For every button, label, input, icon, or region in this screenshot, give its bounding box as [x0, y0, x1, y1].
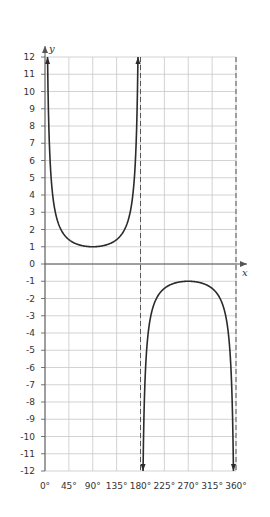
x-tick-label: 315° — [201, 481, 223, 491]
curve-arrow-icon — [135, 57, 140, 64]
y-tick-label: 5 — [29, 173, 35, 183]
x-tick-label: 45° — [61, 481, 77, 491]
x-tick-label: 180° — [130, 481, 152, 491]
y-tick-label: -6 — [26, 363, 35, 373]
x-tick-label: 270° — [177, 481, 199, 491]
y-tick-label: 10 — [24, 87, 36, 97]
curve-arrow-icon — [231, 464, 236, 471]
y-tick-label: 8 — [29, 121, 35, 131]
y-tick-label: 6 — [29, 156, 35, 166]
curve-arrow-icon — [141, 464, 146, 471]
y-tick-label: -10 — [20, 432, 35, 442]
y-tick-label: -8 — [26, 397, 35, 407]
x-tick-labels: 0°45°90°135°180°225°270°315°360° — [40, 481, 247, 491]
y-axis-label: y — [48, 43, 55, 54]
y-tick-label: 2 — [29, 225, 35, 235]
y-tick-label: 4 — [29, 190, 35, 200]
cosec-chart: 1211109876543210-1-2-3-4-5-6-7-8-9-10-11… — [0, 0, 270, 517]
y-tick-label: -5 — [26, 345, 35, 355]
y-tick-label: 0 — [29, 259, 35, 269]
y-tick-label: 7 — [29, 138, 35, 148]
y-tick-label: 11 — [24, 69, 35, 79]
y-tick-label: -3 — [26, 311, 35, 321]
y-tick-labels: 1211109876543210-1-2-3-4-5-6-7-8-9-10-11… — [20, 52, 35, 476]
x-axis-label: x — [242, 267, 248, 278]
x-tick-label: 135° — [106, 481, 128, 491]
y-tick-label: 1 — [29, 242, 35, 252]
y-tick-label: -7 — [26, 380, 35, 390]
y-tick-label: -4 — [26, 328, 35, 338]
y-tick-label: 9 — [29, 104, 35, 114]
y-tick-label: 12 — [24, 52, 35, 62]
y-tick-label: -2 — [26, 294, 35, 304]
x-tick-label: 90° — [85, 481, 101, 491]
y-tick-label: -9 — [26, 414, 35, 424]
x-tick-label: 360° — [225, 481, 247, 491]
y-axis-arrow-icon — [42, 46, 48, 53]
y-tick-label: 3 — [29, 207, 35, 217]
y-tick-label: -11 — [20, 449, 35, 459]
curve-arrow-icon — [45, 57, 50, 64]
y-tick-label: -12 — [20, 466, 35, 476]
x-tick-label: 0° — [40, 481, 50, 491]
y-tick-label: -1 — [26, 276, 35, 286]
x-tick-label: 225° — [154, 481, 176, 491]
